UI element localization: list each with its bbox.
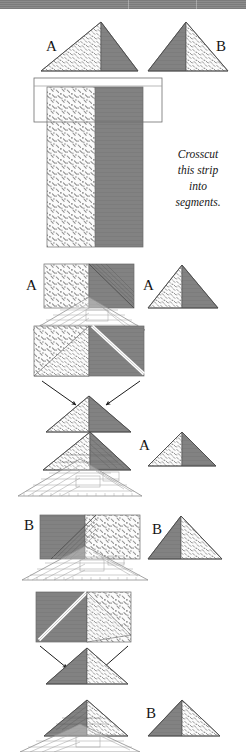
crosscut-caption: Crosscut this strip into segments. [158,146,238,210]
page-canvas: A B Crosscut this strip into segments. A… [0,0,246,752]
quilting-diagram [0,0,246,752]
triangle-unit-a-final [148,432,216,466]
step-3-unit-a-cutting [33,264,218,330]
arrow-right-b [103,646,128,668]
label-a-mid-left: A [26,278,37,293]
step-2-pieced-strip [34,78,162,247]
label-a-lower-mid: A [139,438,150,453]
triangle-unit-a-step3 [148,265,218,308]
label-b-top-right: B [216,39,226,54]
step-5-unit-a-trimming [18,432,216,496]
label-b-section-left: B [24,518,34,533]
step-8-unit-b-trimming [20,700,220,752]
step-4-unit-a-halves [34,326,144,432]
caption-line-3: into [158,178,238,194]
label-a-top-left: A [46,39,57,54]
strip-print-half [47,87,95,247]
triangle-unit-a-assembled [46,396,131,432]
caption-line-4: segments. [158,194,238,210]
arrow-left-b [40,646,67,668]
label-b-bottom: B [146,706,156,721]
strip-solid-half [95,87,143,247]
triangle-unit-b-assembled [46,648,128,684]
step-1-finished-units [41,22,228,71]
arrow-left-a [42,381,76,405]
ruler-overlay-b2 [20,724,140,752]
arrow-right-a [106,381,140,405]
caption-line-1: Crosscut [158,146,238,162]
caption-line-2: this strip [158,162,238,178]
label-a-mid-right: A [143,278,154,293]
step-7-unit-b-halves [36,592,131,684]
triangle-unit-b-final [148,700,220,736]
label-b-section-right: B [152,522,162,537]
step-6-unit-b-cutting [22,515,222,580]
